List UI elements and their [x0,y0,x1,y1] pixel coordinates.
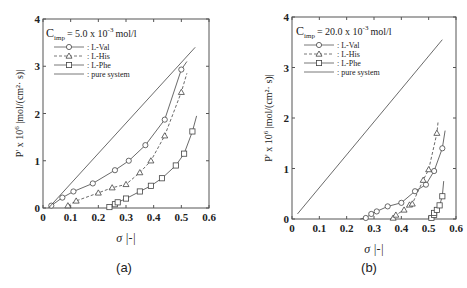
y-axis-label: P' x 106 |mol/(cm²· s)| [13,70,26,157]
circle-marker [179,67,184,72]
circle-marker [440,146,445,151]
y-tick-label: 4 [35,13,41,25]
x-tick-label: 0.6 [202,211,216,223]
x-tick-label: 0.3 [367,222,381,234]
circle-marker [363,215,368,220]
y-tick-label: 3 [284,62,290,74]
y-tick-label: 1 [35,155,41,167]
triangle-marker [109,185,115,190]
square-marker [123,196,128,201]
square-marker [190,129,195,134]
square-marker [159,176,164,181]
y-tick-label: 0 [284,213,290,225]
circle-marker [432,168,437,173]
legend: : L-Val: L-His: L-Phe: pure system [304,41,380,77]
y-tick-label: 0 [35,202,41,214]
triangle-marker [393,212,399,217]
triangle-marker [65,203,71,208]
circle-marker [162,117,167,122]
circle-marker [66,44,71,49]
square-marker [137,189,142,194]
triangle-marker [401,207,407,212]
series-l-phe [429,181,445,220]
x-axis-label: σ |-| [116,231,136,245]
concentration-annotation: Cimp= 20.0 x 10-3mol/l [296,24,392,40]
chart-panel-a: 00.10.20.30.40.50.601234P' x 106 |mol/(c… [13,13,216,275]
panel-caption: (b) [361,260,377,275]
triangle-marker [434,130,440,135]
y-tick-label: 4 [284,11,290,23]
y-axis-label: P' x 106 |mol/(cm²· s)| [262,74,275,161]
triangle-marker [426,167,432,172]
x-tick-label: 0.4 [394,222,408,234]
legend-label: : L-Val [337,41,360,50]
concentration-annotation: Cimp= 5.0 x 10-3mol/l [46,26,137,42]
square-marker [173,163,178,168]
y-tick-label: 3 [35,60,41,72]
triangle-marker [178,89,184,94]
square-marker [107,204,112,209]
square-marker [66,62,71,67]
x-tick-label: 0.4 [147,211,161,223]
legend-label: : pure system [337,68,380,77]
triangle-marker [420,177,426,182]
legend: : L-Val: L-His: L-Phe: pure system [54,43,130,79]
x-tick-label: 0.2 [340,222,354,234]
square-marker [115,200,120,205]
triangle-marker [148,158,154,163]
legend-label: : pure system [87,70,130,79]
circle-marker [316,42,321,47]
series-l-val [360,131,445,221]
legend-label: : L-Val [87,43,110,52]
circle-marker [90,181,95,186]
circle-marker [71,189,76,194]
x-tick-label: 0.1 [312,222,326,234]
y-tick-label: 2 [284,112,290,124]
x-tick-label: 0 [289,222,295,234]
x-axis-label: σ |-| [364,242,384,256]
plot-frame [292,17,456,219]
x-tick-label: 0.3 [119,211,133,223]
circle-marker [369,211,374,216]
circle-marker [60,195,65,200]
circle-marker [112,168,117,173]
square-marker [148,183,153,188]
chart-panel-b: 00.10.20.30.40.50.601234P' x 106 |mol/(c… [262,11,463,275]
circle-marker [143,143,148,148]
square-marker [440,194,445,199]
triangle-marker [137,170,143,175]
x-tick-label: 0.1 [64,211,78,223]
legend-label: : L-Phe [337,59,361,68]
circle-marker [374,209,379,214]
circle-marker [423,182,428,187]
circle-marker [126,158,131,163]
square-marker [182,151,187,156]
square-marker [316,60,321,65]
circle-marker [399,200,404,205]
x-tick-label: 0.6 [449,222,463,234]
square-marker [437,203,442,208]
x-tick-label: 0.5 [422,222,436,234]
x-tick-label: 0.5 [174,211,188,223]
x-tick-label: 0 [40,211,46,223]
circle-marker [412,189,417,194]
figure: 00.10.20.30.40.50.601234P' x 106 |mol/(c… [0,0,467,288]
x-tick-label: 0.2 [91,211,105,223]
y-tick-label: 1 [284,163,290,175]
y-tick-label: 2 [35,108,41,120]
legend-label: : L-His [337,50,360,59]
triangle-marker [162,133,168,138]
circle-marker [385,204,390,209]
panel-caption: (a) [116,260,132,275]
legend-label: : L-Phe [87,61,111,70]
legend-label: : L-His [87,52,110,61]
